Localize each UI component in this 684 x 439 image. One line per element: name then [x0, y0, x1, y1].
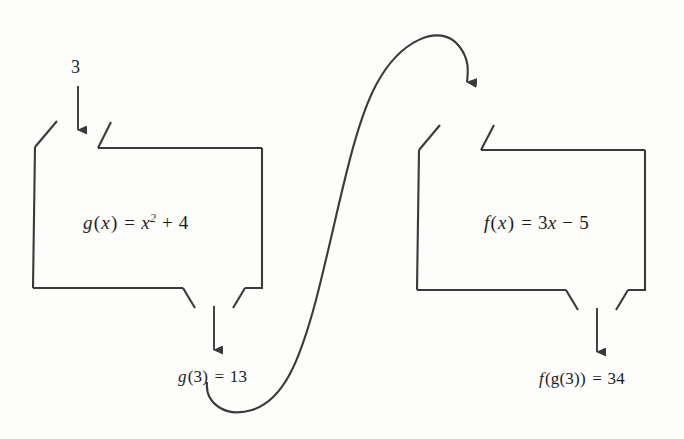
machine-g-outlet-left-flange — [183, 288, 195, 308]
machine-g-left-wall — [33, 147, 35, 288]
machine-f-inlet-left-flange — [419, 125, 440, 150]
s-curve-connector-g-to-f — [207, 35, 468, 412]
machine-f-outlet-right-flange — [616, 290, 628, 310]
machine-f-outlet-left-flange — [566, 290, 578, 310]
machine-g-right-wall — [245, 148, 262, 288]
input-value-label: 3 — [71, 58, 80, 76]
machine-g-inlet-left-flange — [35, 121, 57, 147]
machine-f-formula: f(x) = 3x − 5 — [484, 213, 589, 232]
machine-g-outlet-right-flange — [233, 288, 245, 308]
machine-f-left-wall — [417, 150, 419, 290]
machine-g-formula: g(x) = x2 + 4 — [83, 213, 189, 232]
machine-f-right-wall — [628, 150, 645, 290]
output-g-label: g(3) = 13 — [178, 368, 247, 385]
function-machine-diagram: 3 g(x) = x2 + 4 f(x) = 3x − 5 g(3) = 13 … — [0, 0, 684, 439]
machine-f-inlet-right-flange — [481, 125, 494, 150]
output-f-label: f(g(3)) = 34 — [539, 370, 625, 387]
machine-g-inlet-right-flange — [98, 122, 111, 148]
